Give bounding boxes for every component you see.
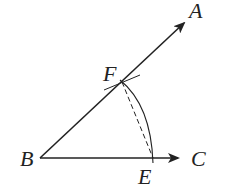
label-C: C [191, 148, 206, 170]
arc-EF [120, 80, 153, 163]
label-B: B [20, 148, 33, 170]
geometry-diagram: A F B C E [0, 0, 225, 189]
label-E: E [138, 166, 151, 188]
label-F: F [103, 63, 116, 85]
ray-BA [40, 23, 184, 158]
segment-FE-dashed [122, 82, 153, 158]
label-A: A [189, 0, 202, 22]
